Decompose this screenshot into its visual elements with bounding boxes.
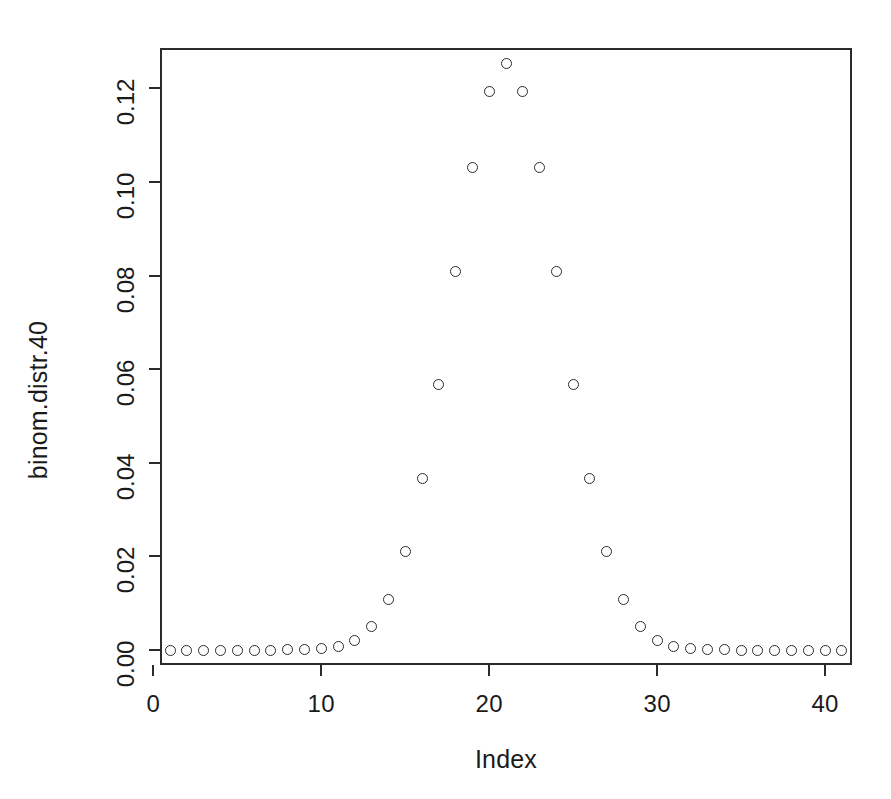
y-tick-mark bbox=[149, 87, 160, 89]
x-axis-title: Index bbox=[475, 745, 537, 774]
plot-canvas: 0.000.020.040.060.080.100.12 010203040 b… bbox=[0, 0, 891, 799]
y-tick-mark bbox=[149, 649, 160, 651]
y-tick-label: 0.02 bbox=[112, 547, 140, 594]
y-tick-label: 0.12 bbox=[112, 79, 140, 126]
y-tick-label: 0.08 bbox=[112, 266, 140, 313]
y-axis-title: binom.distr.40 bbox=[24, 320, 53, 478]
y-tick-mark bbox=[149, 368, 160, 370]
x-tick-label: 0 bbox=[146, 690, 160, 718]
plot-region-box bbox=[160, 48, 852, 665]
x-tick-mark bbox=[320, 665, 322, 676]
y-tick-label: 0.10 bbox=[112, 173, 140, 220]
x-tick-mark bbox=[656, 665, 658, 676]
y-tick-mark bbox=[149, 275, 160, 277]
x-tick-label: 40 bbox=[811, 690, 838, 718]
y-tick-label: 0.06 bbox=[112, 360, 140, 407]
y-tick-label: 0.04 bbox=[112, 453, 140, 500]
y-tick-mark bbox=[149, 462, 160, 464]
y-tick-label: 0.00 bbox=[112, 641, 140, 688]
y-tick-mark bbox=[149, 181, 160, 183]
x-tick-mark bbox=[152, 665, 154, 676]
x-tick-label: 10 bbox=[308, 690, 335, 718]
x-tick-label: 20 bbox=[476, 690, 503, 718]
x-tick-label: 30 bbox=[644, 690, 671, 718]
y-tick-mark bbox=[149, 555, 160, 557]
x-tick-mark bbox=[488, 665, 490, 676]
x-tick-mark bbox=[824, 665, 826, 676]
